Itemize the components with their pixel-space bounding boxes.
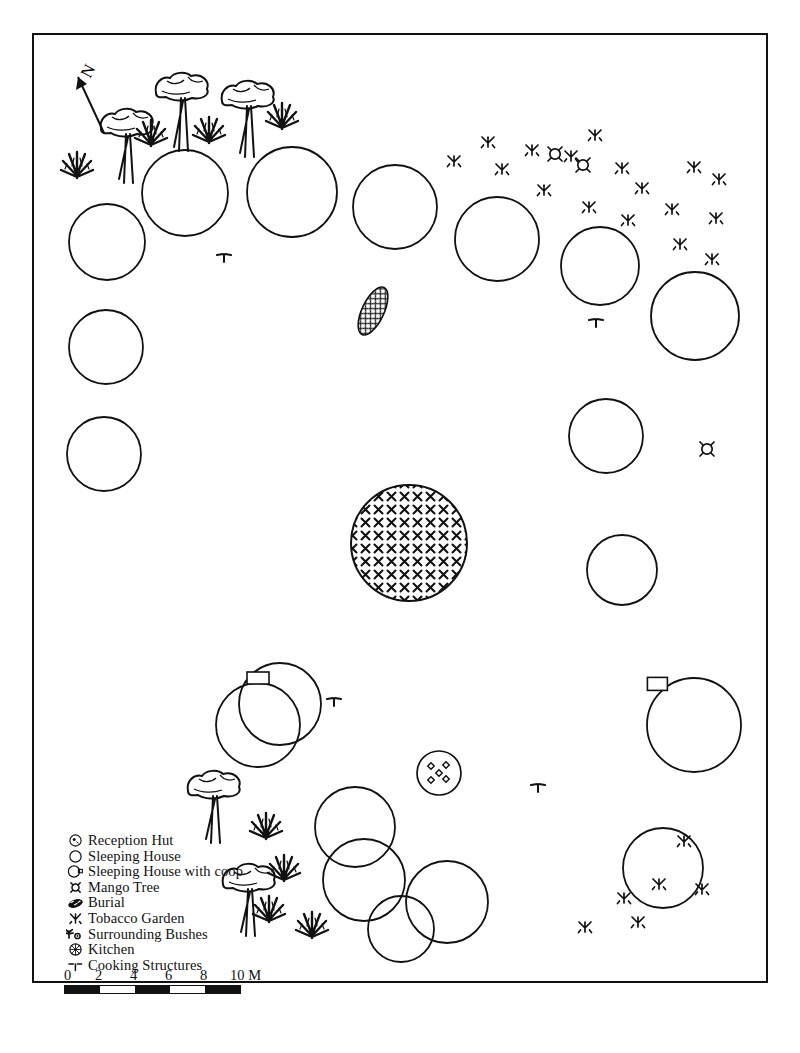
- tobacco-garden-plot: [448, 156, 461, 167]
- tobacco-garden-plot: [538, 185, 551, 196]
- burial: [352, 283, 394, 339]
- tobacco-garden-plot: [616, 163, 629, 174]
- sleeping-house: [353, 165, 437, 249]
- scale-tick: 2: [95, 968, 102, 983]
- tobacco-garden-plot: [622, 215, 635, 226]
- site-plan-figure: N Reception Hut: [0, 0, 800, 1053]
- sleeping-house: [368, 896, 434, 962]
- scale-tick: 10 M: [230, 968, 261, 983]
- cooking-structure: [217, 254, 231, 262]
- scale-tick: 0: [64, 968, 71, 983]
- tobacco-garden-plot: [674, 239, 687, 250]
- tobacco-garden-plot: [688, 162, 701, 173]
- scale-bar: 0 2 4 6 8 10 M: [64, 968, 274, 994]
- scale-segment: [65, 986, 100, 993]
- legend-item-sleeping-house: Sleeping House: [62, 849, 322, 865]
- legend-item-tobacco-garden: Tobacco Garden: [62, 911, 322, 927]
- tobacco-garden-plot: [482, 137, 495, 148]
- surrounding-bushes-icon: [62, 927, 88, 943]
- tobacco-garden-plot: [653, 879, 666, 890]
- sleeping-house-with-coop-layer: [216, 672, 741, 772]
- burial-icon: [62, 895, 88, 911]
- mango-canopy-tree: [222, 81, 274, 157]
- surrounding-bush: [61, 152, 93, 178]
- scale-tick: 4: [130, 968, 137, 983]
- tobacco-garden-plot: [589, 130, 602, 141]
- sleeping-house: [323, 839, 405, 921]
- legend-label: Reception Hut: [88, 833, 173, 849]
- mango-tree-icon: [62, 880, 88, 896]
- sleeping-house: [142, 150, 228, 236]
- tobacco-garden-plot: [632, 917, 645, 928]
- legend-item-mango-tree: Mango Tree: [62, 880, 322, 896]
- tobacco-garden-plot: [618, 893, 631, 904]
- reception-hut: [351, 485, 467, 601]
- sleeping-house: [406, 861, 488, 943]
- sleeping-house: [67, 417, 141, 491]
- sleeping-house-with-coop: [216, 672, 300, 767]
- surrounding-bush: [266, 103, 298, 129]
- cooking-structure: [327, 698, 341, 706]
- sleeping-house: [587, 535, 657, 605]
- legend-item-burial: Burial: [62, 895, 322, 911]
- legend-label: Burial: [88, 895, 125, 911]
- map-frame: N Reception Hut: [32, 33, 768, 983]
- tobacco-garden-plot: [526, 145, 539, 156]
- tobacco-garden-plot: [636, 183, 649, 194]
- tobacco-garden-plot: [565, 151, 578, 162]
- tobacco-garden-plot: [583, 202, 596, 213]
- cooking-structure: [531, 784, 545, 792]
- legend-item-reception-hut: Reception Hut: [62, 833, 322, 849]
- sleeping-house: [561, 227, 639, 305]
- sleeping-house-coop-icon: [62, 864, 88, 880]
- legend-label: Tobacco Garden: [88, 911, 185, 927]
- north-arrow: N: [64, 63, 124, 135]
- tobacco-garden-plot: [666, 204, 679, 215]
- tobacco-garden-plot: [706, 254, 719, 265]
- sleeping-house: [651, 272, 739, 360]
- scale-segment: [205, 986, 240, 993]
- mango-tree: [700, 442, 714, 456]
- surrounding-bushes-layer: [61, 103, 328, 938]
- sleeping-house: [569, 399, 643, 473]
- sleeping-house-with-coop: [647, 677, 741, 772]
- legend-label: Sleeping House: [88, 849, 181, 865]
- scale-tick-labels: 0 2 4 6 8 10 M: [64, 968, 274, 985]
- reception-hut: [351, 485, 467, 601]
- sleeping-house: [623, 828, 703, 908]
- kitchen-icon: [62, 942, 88, 958]
- reception-hut-icon: [62, 833, 88, 849]
- tobacco-garden-plot: [710, 213, 723, 224]
- sleeping-house-icon: [62, 849, 88, 865]
- mango-tree: [548, 147, 562, 161]
- legend: Reception Hut Sleeping House Sleepi: [62, 833, 322, 973]
- tobacco-garden-icon: [62, 911, 88, 927]
- scale-track: [64, 985, 241, 994]
- scale-tick: 8: [200, 968, 207, 983]
- scale-tick: 6: [165, 968, 172, 983]
- legend-label: Surrounding Bushes: [88, 927, 208, 943]
- sleeping-house: [69, 310, 143, 384]
- legend-label: Mango Tree: [88, 880, 160, 896]
- tobacco-garden-plot: [496, 164, 509, 175]
- legend-item-surrounding-bushes: Surrounding Bushes: [62, 927, 322, 943]
- legend-item-kitchen: Kitchen: [62, 942, 322, 958]
- tobacco-garden-plot: [579, 922, 592, 933]
- tobacco-garden-plot: [713, 174, 726, 185]
- sleeping-house: [455, 197, 539, 281]
- mango-tree: [576, 158, 590, 172]
- legend-item-sleeping-house-with-coop: Sleeping House with coop: [62, 864, 322, 880]
- cooking-structure: [589, 319, 603, 327]
- surrounding-bush: [193, 117, 225, 143]
- legend-label: Kitchen: [88, 942, 135, 958]
- sleeping-house: [315, 787, 395, 867]
- legend-label: Sleeping House with coop: [88, 864, 243, 880]
- scale-segment: [135, 986, 170, 993]
- burial: [352, 283, 394, 339]
- kitchen: [417, 751, 461, 795]
- north-label: N: [77, 63, 100, 81]
- kitchen: [417, 751, 461, 795]
- sleeping-house: [247, 147, 337, 237]
- sleeping-house: [69, 204, 145, 280]
- tobacco-garden-layer: [448, 130, 726, 933]
